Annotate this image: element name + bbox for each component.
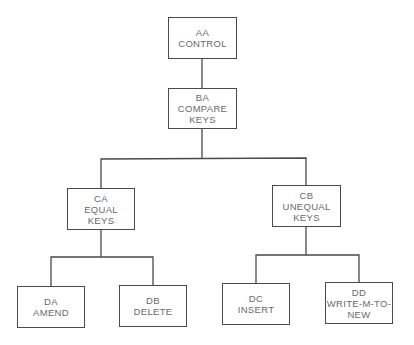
- node-label: EQUAL: [84, 204, 118, 215]
- node-code: DD: [352, 287, 366, 298]
- node-cb-unequal-keys: CB UNEQUAL KEYS: [272, 185, 341, 227]
- node-label: KEYS: [88, 215, 115, 226]
- edge-cb-branches: [256, 255, 359, 283]
- node-ba-compare-keys: BA COMPARE KEYS: [168, 88, 237, 129]
- node-label: INSERT: [238, 304, 274, 315]
- node-db-delete: DB DELETE: [119, 285, 187, 327]
- node-code: BA: [196, 92, 209, 103]
- node-label: COMPARE: [178, 103, 227, 114]
- node-code: DA: [44, 296, 58, 307]
- node-code: DB: [146, 295, 160, 306]
- node-aa-control: AA CONTROL: [168, 17, 237, 59]
- node-label: NEW: [347, 309, 370, 320]
- node-label: KEYS: [293, 212, 320, 223]
- node-ca-equal-keys: CA EQUAL KEYS: [67, 188, 135, 230]
- node-label: AMEND: [33, 307, 69, 318]
- node-da-amend: DA AMEND: [17, 286, 85, 328]
- node-dc-insert: DC INSERT: [222, 283, 290, 325]
- node-label: DELETE: [134, 306, 173, 317]
- node-label: CONTROL: [178, 38, 227, 49]
- node-label: WRITE-M-TO-: [327, 298, 391, 309]
- edge-ba-branches: [101, 158, 306, 188]
- node-dd-write-m-to-new: DD WRITE-M-TO- NEW: [325, 282, 393, 324]
- node-code: DC: [249, 293, 263, 304]
- node-label: KEYS: [189, 114, 216, 125]
- node-label: UNEQUAL: [282, 201, 330, 212]
- hierarchy-chart: AA CONTROL BA COMPARE KEYS CA EQUAL KEYS…: [0, 0, 414, 345]
- node-code: CB: [300, 190, 314, 201]
- node-code: CA: [94, 193, 108, 204]
- edge-ca-branches: [51, 257, 153, 286]
- node-code: AA: [196, 27, 209, 38]
